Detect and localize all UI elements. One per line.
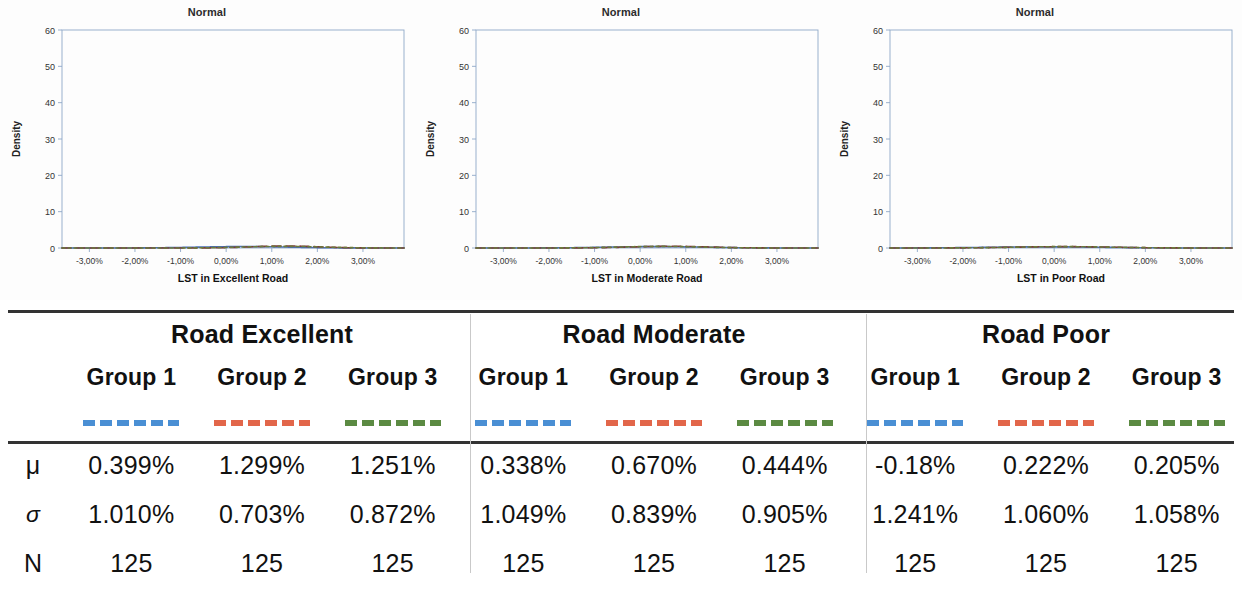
svg-text:-3,00%: -3,00% bbox=[76, 256, 103, 266]
legend-dash-icon bbox=[737, 420, 833, 426]
row-label-n: N bbox=[0, 539, 66, 588]
svg-text:1,00%: 1,00% bbox=[260, 256, 285, 266]
spacer-cell bbox=[0, 400, 66, 441]
svg-text:50: 50 bbox=[873, 62, 883, 72]
statistics-grid: Road ExcellentRoad ModerateRoad PoorGrou… bbox=[0, 314, 1242, 588]
group-title-road-moderate-2: Group 2 bbox=[589, 354, 720, 400]
cell-n-road-excellent-2: 125 bbox=[197, 539, 328, 588]
svg-text:0: 0 bbox=[50, 244, 55, 254]
legend-dash-icon bbox=[867, 420, 963, 426]
chart-poor-plot: 0102030405060Density-3,00%-2,00%-1,00%0,… bbox=[828, 18, 1242, 296]
svg-text:LST in Poor Road: LST in Poor Road bbox=[1017, 272, 1105, 284]
stats-table: Road ExcellentRoad ModerateRoad PoorGrou… bbox=[0, 300, 1242, 591]
cell-mu-road-poor-2: 0.222% bbox=[981, 441, 1112, 490]
table-top-rule bbox=[8, 310, 1234, 313]
road-title-row: Road ExcellentRoad ModerateRoad Poor bbox=[0, 314, 1242, 354]
svg-text:0,00%: 0,00% bbox=[1042, 256, 1067, 266]
curve-group-3 bbox=[62, 246, 404, 248]
chart-title: Normal bbox=[828, 6, 1242, 18]
svg-text:LST in Excellent Road: LST in Excellent Road bbox=[178, 272, 288, 284]
legend-cell-road-moderate-2 bbox=[589, 400, 720, 441]
chart-moderate-panel: Normal0102030405060Density-3,00%-2,00%-1… bbox=[414, 0, 828, 300]
svg-text:1,00%: 1,00% bbox=[1088, 256, 1113, 266]
group-title-road-excellent-3: Group 3 bbox=[327, 354, 458, 400]
svg-text:30: 30 bbox=[459, 135, 469, 145]
svg-text:30: 30 bbox=[45, 135, 55, 145]
legend-dash-icon bbox=[998, 420, 1094, 426]
cell-n-road-poor-1: 125 bbox=[850, 539, 981, 588]
table-row-n: N125125125125125125125125125 bbox=[0, 539, 1242, 588]
legend-cell-road-excellent-1 bbox=[66, 400, 197, 441]
spacer-cell bbox=[0, 314, 66, 354]
chart-excellent-panel: Normal0102030405060Density-3,00%-2,00%-1… bbox=[0, 0, 414, 300]
group-title-row: Group 1Group 2Group 3Group 1Group 2Group… bbox=[0, 354, 1242, 400]
cell-sigma-road-poor-2: 1.060% bbox=[981, 490, 1112, 539]
svg-text:Density: Density bbox=[11, 121, 22, 158]
road-title-road-moderate: Road Moderate bbox=[458, 314, 850, 354]
legend-cell-road-moderate-1 bbox=[458, 400, 589, 441]
svg-text:40: 40 bbox=[45, 98, 55, 108]
cell-sigma-road-excellent-2: 0.703% bbox=[197, 490, 328, 539]
legend-dash-icon bbox=[214, 420, 310, 426]
svg-text:3,00%: 3,00% bbox=[1179, 256, 1204, 266]
legend-cell-road-poor-2 bbox=[981, 400, 1112, 441]
cell-mu-road-moderate-3: 0.444% bbox=[719, 441, 850, 490]
group-title-road-poor-1: Group 1 bbox=[850, 354, 981, 400]
svg-text:Density: Density bbox=[839, 121, 850, 158]
legend-dash-icon bbox=[1129, 420, 1225, 426]
svg-text:20: 20 bbox=[873, 171, 883, 181]
chart-title: Normal bbox=[0, 6, 414, 18]
svg-text:20: 20 bbox=[45, 171, 55, 181]
svg-text:3,00%: 3,00% bbox=[351, 256, 376, 266]
group-title-road-moderate-1: Group 1 bbox=[458, 354, 589, 400]
cell-n-road-excellent-3: 125 bbox=[327, 539, 458, 588]
svg-text:40: 40 bbox=[459, 98, 469, 108]
svg-text:-3,00%: -3,00% bbox=[904, 256, 931, 266]
svg-text:10: 10 bbox=[873, 207, 883, 217]
svg-text:0: 0 bbox=[878, 244, 883, 254]
svg-text:Density: Density bbox=[425, 121, 436, 158]
cell-sigma-road-excellent-1: 1.010% bbox=[66, 490, 197, 539]
cell-sigma-road-moderate-3: 0.905% bbox=[719, 490, 850, 539]
row-label-mu: μ bbox=[0, 441, 66, 490]
cell-sigma-road-moderate-2: 0.839% bbox=[589, 490, 720, 539]
legend-dash-icon bbox=[345, 420, 441, 426]
spacer-cell bbox=[0, 354, 66, 400]
svg-text:0,00%: 0,00% bbox=[628, 256, 653, 266]
legend-cell-road-moderate-3 bbox=[719, 400, 850, 441]
svg-text:1,00%: 1,00% bbox=[674, 256, 699, 266]
cell-mu-road-poor-1: -0.18% bbox=[850, 441, 981, 490]
charts-strip: Normal0102030405060Density-3,00%-2,00%-1… bbox=[0, 0, 1242, 300]
chart-title: Normal bbox=[414, 6, 828, 18]
svg-text:60: 60 bbox=[459, 26, 469, 36]
svg-text:60: 60 bbox=[873, 26, 883, 36]
cell-n-road-poor-2: 125 bbox=[981, 539, 1112, 588]
cell-mu-road-moderate-1: 0.338% bbox=[458, 441, 589, 490]
svg-text:-1,00%: -1,00% bbox=[995, 256, 1022, 266]
svg-text:0,00%: 0,00% bbox=[214, 256, 239, 266]
cell-mu-road-excellent-1: 0.399% bbox=[66, 441, 197, 490]
legend-dash-icon bbox=[475, 420, 571, 426]
svg-text:50: 50 bbox=[45, 62, 55, 72]
cell-n-road-moderate-1: 125 bbox=[458, 539, 589, 588]
table-row-sigma: σ1.010%0.703%0.872%1.049%0.839%0.905%1.2… bbox=[0, 490, 1242, 539]
svg-text:-2,00%: -2,00% bbox=[949, 256, 976, 266]
svg-text:-2,00%: -2,00% bbox=[535, 256, 562, 266]
svg-text:0: 0 bbox=[464, 244, 469, 254]
chart-excellent-plot: 0102030405060Density-3,00%-2,00%-1,00%0,… bbox=[0, 18, 414, 296]
cell-mu-road-poor-3: 0.205% bbox=[1111, 441, 1242, 490]
cell-sigma-road-poor-3: 1.058% bbox=[1111, 490, 1242, 539]
svg-text:2,00%: 2,00% bbox=[1133, 256, 1158, 266]
legend-cell-road-poor-3 bbox=[1111, 400, 1242, 441]
legend-dash-icon bbox=[83, 420, 179, 426]
svg-text:10: 10 bbox=[459, 207, 469, 217]
svg-text:30: 30 bbox=[873, 135, 883, 145]
legend-dash-icon bbox=[606, 420, 702, 426]
svg-text:50: 50 bbox=[459, 62, 469, 72]
cell-n-road-excellent-1: 125 bbox=[66, 539, 197, 588]
group-title-road-excellent-1: Group 1 bbox=[66, 354, 197, 400]
cell-mu-road-moderate-2: 0.670% bbox=[589, 441, 720, 490]
svg-text:2,00%: 2,00% bbox=[719, 256, 744, 266]
road-title-road-excellent: Road Excellent bbox=[66, 314, 458, 354]
cell-mu-road-excellent-2: 1.299% bbox=[197, 441, 328, 490]
